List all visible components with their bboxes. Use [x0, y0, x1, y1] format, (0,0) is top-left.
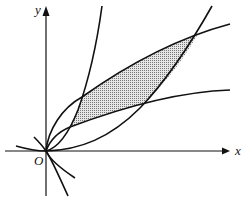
y-axis-label: y: [35, 2, 41, 18]
x-axis-label: x: [235, 143, 241, 159]
diagram: y x O: [0, 0, 245, 204]
x-axis-arrow-icon: [222, 148, 230, 155]
origin-label: O: [34, 153, 43, 169]
curves-figure: [0, 0, 245, 204]
y-axis-arrow-icon: [43, 6, 50, 16]
